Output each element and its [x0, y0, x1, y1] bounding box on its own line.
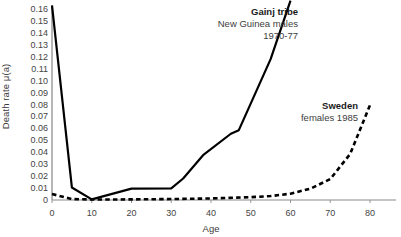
annotation-gainj-line3: 1970-77 [170, 30, 298, 42]
annotation-gainj-title: Gainj tribe [170, 6, 298, 18]
death-rate-chart: Death rate μ(a) 00.010.020.030.040.050.0… [0, 0, 401, 237]
annotation-gainj: Gainj tribe New Guinea males 1970-77 [170, 6, 298, 42]
annotation-sweden-line2: females 1985 [272, 112, 358, 124]
annotation-gainj-line2: New Guinea males [170, 18, 298, 30]
annotation-sweden-title: Sweden [272, 100, 358, 112]
annotation-sweden: Sweden females 1985 [272, 100, 358, 124]
